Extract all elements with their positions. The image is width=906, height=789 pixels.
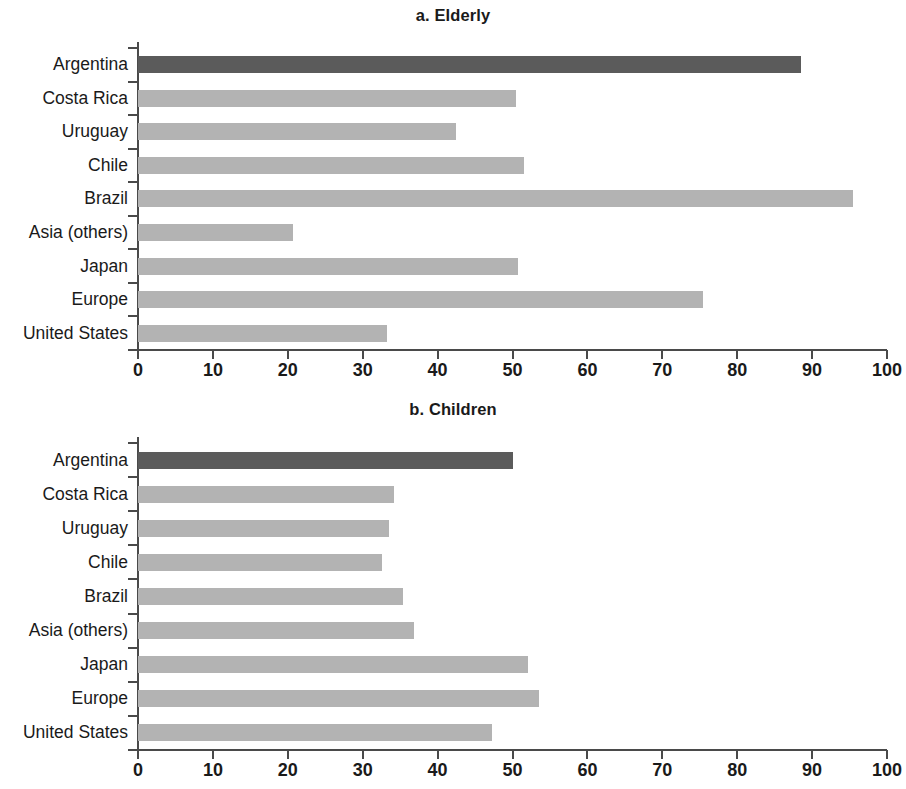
bar-costa-rica <box>138 486 394 503</box>
x-axis-tick-label: 90 <box>802 360 822 381</box>
figure-container: a. Elderly ArgentinaCosta RicaUruguayChi… <box>0 0 906 789</box>
y-axis-tick <box>128 476 138 478</box>
y-axis-tick <box>128 442 138 444</box>
x-axis-tick <box>362 750 364 759</box>
y-axis-tick <box>128 681 138 683</box>
y-axis-tick <box>128 181 138 183</box>
x-axis-tick <box>437 750 439 759</box>
y-axis-tick <box>128 544 138 546</box>
bar-europe <box>138 690 539 707</box>
x-axis-tick <box>437 350 439 359</box>
x-axis-tick-label: 60 <box>577 360 597 381</box>
category-label: Chile <box>0 149 137 183</box>
x-axis-tick-label: 20 <box>278 360 298 381</box>
y-axis-tick <box>128 647 138 649</box>
x-axis-tick <box>362 350 364 359</box>
x-axis-tick <box>287 350 289 359</box>
bar-brazil <box>138 588 403 605</box>
y-axis-tick <box>128 715 138 717</box>
x-axis-tick-label: 80 <box>727 760 747 781</box>
category-label: Costa Rica <box>0 82 137 116</box>
x-axis-tick-label: 50 <box>502 760 522 781</box>
bar-row <box>138 682 887 716</box>
category-label: Europe <box>0 682 137 716</box>
chart-title-children: b. Children <box>0 400 906 419</box>
category-label: Costa Rica <box>0 477 137 511</box>
x-axis-tick-label: 40 <box>428 760 448 781</box>
x-axis-tick-label: 10 <box>203 760 223 781</box>
bar-row <box>138 648 887 682</box>
bar-asia-others <box>138 224 293 241</box>
plot-area-children <box>138 443 887 750</box>
bar-row <box>138 182 887 216</box>
bar-row <box>138 443 887 477</box>
bar-row <box>138 283 887 317</box>
x-axis-tick-label: 0 <box>133 760 143 781</box>
category-label: Chile <box>0 545 137 579</box>
chart-panel-elderly: a. Elderly ArgentinaCosta RicaUruguayChi… <box>0 0 906 394</box>
category-label: United States <box>0 716 137 750</box>
category-axis-labels-elderly: ArgentinaCosta RicaUruguayChileBrazilAsi… <box>0 48 128 350</box>
x-axis-tick <box>512 750 514 759</box>
x-axis-tick-label: 80 <box>727 360 747 381</box>
x-axis-tick <box>886 350 888 359</box>
bar-row <box>138 716 887 750</box>
x-axis-tick-label: 90 <box>802 760 822 781</box>
x-axis-tick <box>811 750 813 759</box>
y-axis-tick <box>128 578 138 580</box>
y-axis-tick <box>128 315 138 317</box>
x-axis-tick <box>137 350 139 359</box>
x-axis-tick <box>886 750 888 759</box>
x-axis-tick <box>661 750 663 759</box>
bar-row <box>138 579 887 613</box>
category-label: Asia (others) <box>0 216 137 250</box>
x-axis-tick-label: 50 <box>502 360 522 381</box>
y-axis-tick <box>128 613 138 615</box>
y-axis-tick <box>128 81 138 83</box>
x-axis-tick <box>586 750 588 759</box>
category-label: Asia (others) <box>0 614 137 648</box>
bar-row <box>138 82 887 116</box>
y-axis-tick <box>128 282 138 284</box>
x-axis-tick-label: 10 <box>203 360 223 381</box>
bar-row <box>138 149 887 183</box>
category-label: Argentina <box>0 443 137 477</box>
x-axis-tick <box>811 350 813 359</box>
category-label: Uruguay <box>0 511 137 545</box>
category-label: United States <box>0 316 137 350</box>
y-axis-tick <box>128 148 138 150</box>
category-label: Uruguay <box>0 115 137 149</box>
bar-japan <box>138 656 528 673</box>
y-axis-tick <box>128 47 138 49</box>
x-axis-tick <box>736 750 738 759</box>
bar-brazil <box>138 190 853 207</box>
bar-rows-children <box>138 443 887 750</box>
y-axis-tick <box>128 114 138 116</box>
plot-area-elderly <box>138 48 887 350</box>
bar-japan <box>138 258 518 275</box>
x-axis-tick-label: 30 <box>353 360 373 381</box>
x-axis-tick <box>586 350 588 359</box>
x-axis-tick-label: 0 <box>133 360 143 381</box>
x-axis-tick <box>212 750 214 759</box>
x-axis-tick-label: 70 <box>652 760 672 781</box>
x-axis-tick <box>512 350 514 359</box>
x-axis-tick <box>287 750 289 759</box>
bar-row <box>138 216 887 250</box>
x-axis-tick-label: 40 <box>428 360 448 381</box>
category-label: Europe <box>0 283 137 317</box>
x-axis-ticks-children <box>138 750 887 759</box>
x-axis-tick-label: 20 <box>278 760 298 781</box>
bar-chile <box>138 554 382 571</box>
x-axis-tick <box>212 350 214 359</box>
bar-row <box>138 249 887 283</box>
category-axis-labels-children: ArgentinaCosta RicaUruguayChileBrazilAsi… <box>0 443 128 750</box>
bar-row <box>138 614 887 648</box>
bar-row <box>138 48 887 82</box>
bar-uruguay <box>138 123 456 140</box>
x-axis-tick-label: 100 <box>872 360 902 381</box>
x-axis-tick-label: 100 <box>872 760 902 781</box>
bar-costa-rica <box>138 90 516 107</box>
bar-asia-others <box>138 622 414 639</box>
bar-argentina <box>138 452 513 469</box>
